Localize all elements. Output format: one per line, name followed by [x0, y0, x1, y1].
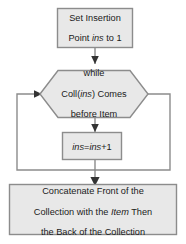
arrowhead-start-to-decision — [91, 56, 99, 64]
node-start-shape — [58, 9, 133, 48]
node-end-shape — [10, 185, 177, 235]
flowchart-diagram: Set Insertion Point ins to 1 while Coll(… — [0, 0, 186, 244]
node-decision-shape — [40, 71, 148, 118]
node-process-shape — [63, 133, 122, 160]
flowchart-canvas — [0, 0, 186, 244]
arrowhead-decision-to-process — [91, 124, 99, 132]
